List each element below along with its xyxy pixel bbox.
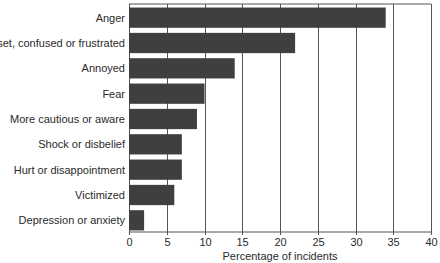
category-label: Victimized xyxy=(75,189,125,201)
bar xyxy=(129,109,197,129)
x-tick-label: 20 xyxy=(274,236,286,248)
bar xyxy=(129,58,235,78)
category-label: Annoyed xyxy=(82,62,125,74)
bar xyxy=(129,185,174,205)
x-tick-labels: 0510152025303540 xyxy=(126,236,437,248)
x-tick-label: 0 xyxy=(126,236,132,248)
x-tick-label: 25 xyxy=(312,236,324,248)
category-label: More cautious or aware xyxy=(10,113,125,125)
x-tick-label: 10 xyxy=(199,236,211,248)
category-label: Depression or anxiety xyxy=(19,214,126,226)
x-tick-label: 40 xyxy=(425,236,437,248)
x-tick-label: 5 xyxy=(164,236,170,248)
category-label: Shock or disbelief xyxy=(38,138,126,150)
bar xyxy=(129,134,182,154)
category-labels: AngerUpset, confused or frustratedAnnoye… xyxy=(0,12,126,227)
bar xyxy=(129,8,386,28)
x-axis-title: Percentage of incidents xyxy=(223,250,338,262)
bar-chart: AngerUpset, confused or frustratedAnnoye… xyxy=(0,0,440,263)
bar xyxy=(129,84,205,104)
x-tick-label: 15 xyxy=(236,236,248,248)
x-tick-label: 35 xyxy=(387,236,399,248)
bar xyxy=(129,210,144,230)
bar-layer xyxy=(129,8,386,231)
bar xyxy=(129,160,182,180)
x-tick-label: 30 xyxy=(350,236,362,248)
bar xyxy=(129,33,295,53)
category-label: Upset, confused or frustrated xyxy=(0,37,125,49)
category-label: Fear xyxy=(102,88,125,100)
category-label: Anger xyxy=(96,12,126,24)
category-label: Hurt or disappointment xyxy=(14,164,125,176)
